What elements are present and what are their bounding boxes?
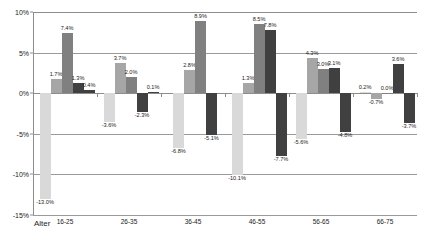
- bar-value-label: 4.3%: [306, 51, 319, 57]
- bar: [126, 77, 137, 93]
- bar-value-label: 2.8%: [183, 63, 196, 69]
- bar: [340, 93, 351, 132]
- bar: [254, 24, 265, 93]
- bar-group-66-75: 0.2%-0.7%0.0%3.6%-3.7%: [353, 12, 417, 215]
- x-tick-label-36-45: 36-45: [185, 219, 202, 226]
- bar-value-label: -7.7%: [274, 157, 289, 163]
- y-tick-label: -5%: [17, 130, 29, 137]
- x-tick-mark: [161, 93, 162, 97]
- x-tick-mark: [289, 93, 290, 97]
- bar-group-16-25: -13.0%1.7%7.4%1.3%0.4%: [33, 12, 97, 215]
- bar-value-label: -4.8%: [338, 133, 353, 139]
- bar: [62, 33, 73, 93]
- bar-value-label: -13.0%: [36, 200, 54, 206]
- bar-value-label: 3.7%: [114, 56, 127, 62]
- bar: [296, 93, 307, 138]
- x-tick-mark: [417, 93, 418, 97]
- bar-group-56-65: -5.6%4.3%3.0%3.1%-4.8%: [289, 12, 353, 215]
- bar-value-label: -5.1%: [204, 136, 219, 142]
- bar: [243, 83, 254, 94]
- y-tick-label: 5%: [19, 49, 29, 56]
- bar-value-label: 1.7%: [50, 72, 63, 78]
- bar: [393, 64, 404, 93]
- x-tick-label-66-75: 66-75: [377, 219, 394, 226]
- bar-value-label: 0.4%: [83, 83, 96, 89]
- bar-value-label: 0.2%: [359, 85, 372, 91]
- x-tick-label-56-65: 56-65: [313, 219, 330, 226]
- bar: [195, 21, 206, 93]
- bar-value-label: 2.0%: [125, 70, 138, 76]
- y-tick-label: 10%: [15, 9, 29, 16]
- x-tick-mark: [97, 93, 98, 97]
- bar: [51, 79, 62, 93]
- bar: [360, 92, 371, 94]
- bar-value-label: 0.0%: [381, 86, 394, 92]
- bar-value-label: 3.6%: [392, 57, 405, 63]
- bar-value-label: 8.9%: [194, 14, 207, 20]
- bar-value-label: 7.8%: [264, 23, 277, 29]
- x-tick-mark: [353, 93, 354, 97]
- bar-group-46-55: -10.1%1.3%8.5%7.8%-7.7%: [225, 12, 289, 215]
- bar-value-label: 1.3%: [242, 76, 255, 82]
- y-tick-label: 0%: [19, 90, 29, 97]
- plot-area: 10%5%0%-5%-10%-15%-13.0%1.7%7.4%1.3%0.4%…: [33, 12, 417, 215]
- bar-group-36-45: -6.8%2.8%8.9%-5.1%: [161, 12, 225, 215]
- bar: [232, 93, 243, 175]
- bar-chart: 10%5%0%-5%-10%-15%-13.0%1.7%7.4%1.3%0.4%…: [0, 0, 428, 246]
- bar: [137, 93, 148, 112]
- bar-group-26-35: -3.6%3.7%2.0%-2.3%0.1%: [97, 12, 161, 215]
- x-tick-label-26-35: 26-35: [121, 219, 138, 226]
- bar: [276, 93, 287, 156]
- x-tick-label-46-55: 46-55: [249, 219, 266, 226]
- bar-value-label: -2.3%: [135, 113, 150, 119]
- bar: [148, 92, 159, 93]
- bar: [404, 93, 415, 123]
- bar-value-label: -3.7%: [402, 124, 417, 130]
- bar: [40, 93, 51, 199]
- bar-value-label: 1.3%: [72, 76, 85, 82]
- gridline-neg15: [33, 215, 417, 216]
- y-tick-label: -10%: [13, 171, 29, 178]
- y-tick-label: -15%: [13, 212, 29, 219]
- bar: [265, 30, 276, 93]
- x-tick-mark: [225, 93, 226, 97]
- bar: [382, 93, 393, 94]
- x-axis-title: Alter: [34, 220, 50, 228]
- bar: [318, 69, 329, 93]
- bar: [84, 90, 95, 93]
- x-axis-tick-labels: 16-2526-3536-4546-5556-6566-75: [0, 219, 428, 235]
- bar-value-label: 3.1%: [328, 61, 341, 67]
- bar: [173, 93, 184, 148]
- bar: [206, 93, 217, 134]
- bar: [184, 70, 195, 93]
- bar-value-label: -10.1%: [228, 176, 246, 182]
- bar: [329, 68, 340, 93]
- bar: [104, 93, 115, 122]
- bar-value-label: -0.7%: [369, 100, 384, 106]
- bar: [115, 63, 126, 93]
- bar-value-label: 0.1%: [147, 85, 160, 91]
- x-tick-mark: [33, 93, 34, 97]
- bar-value-label: -6.8%: [171, 149, 186, 155]
- bar-value-label: -5.6%: [294, 140, 309, 146]
- bar-value-label: 7.4%: [61, 26, 74, 32]
- x-tick-label-16-25: 16-25: [57, 219, 74, 226]
- bar-value-label: -3.6%: [102, 123, 117, 129]
